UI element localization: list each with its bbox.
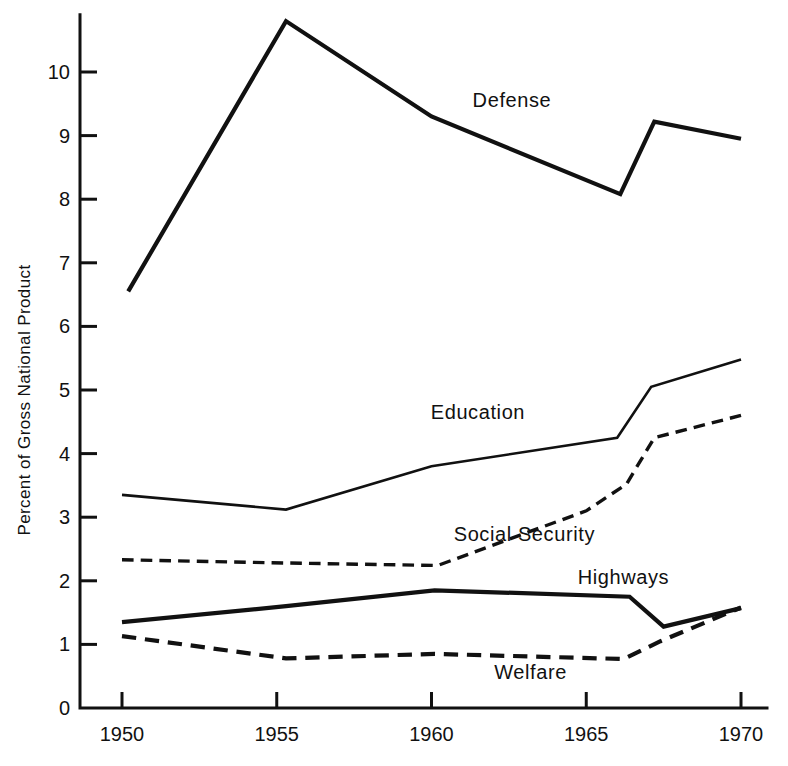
series-label-social-security: Social Security [454, 523, 595, 545]
x-tick-label: 1970 [719, 723, 764, 745]
x-tick-label: 1960 [409, 723, 454, 745]
series-label-defense: Defense [473, 89, 552, 111]
y-tick-label: 1 [59, 633, 70, 655]
x-axis-tick-labels: 19501955196019651970 [100, 723, 764, 745]
axes [80, 15, 767, 708]
axis-lines [80, 15, 767, 708]
series-line-social-security [122, 415, 741, 565]
y-tick-label: 6 [59, 315, 70, 337]
series-label-welfare: Welfare [494, 661, 567, 683]
x-tick-label: 1950 [100, 723, 145, 745]
x-axis-ticks [122, 692, 741, 708]
y-tick-label: 9 [59, 125, 70, 147]
data-series [122, 21, 741, 659]
x-tick-label: 1965 [564, 723, 609, 745]
y-tick-label: 8 [59, 188, 70, 210]
chart-canvas: 012345678910 19501955196019651970 Defens… [0, 0, 788, 766]
y-axis-ticks [80, 72, 97, 644]
x-tick-label: 1955 [255, 723, 300, 745]
y-tick-label: 3 [59, 506, 70, 528]
series-line-education [122, 360, 741, 510]
y-tick-label: 10 [48, 61, 70, 83]
y-tick-label: 4 [59, 443, 70, 465]
series-label-education: Education [431, 401, 525, 423]
chart-figure: 012345678910 19501955196019651970 Defens… [0, 0, 788, 766]
y-axis-tick-labels: 012345678910 [48, 61, 70, 719]
y-tick-label: 5 [59, 379, 70, 401]
y-tick-label: 0 [59, 697, 70, 719]
series-line-defense [128, 21, 741, 291]
series-label-highways: Highways [578, 566, 670, 588]
y-tick-label: 2 [59, 570, 70, 592]
y-axis-title: Percent of Gross National Product [15, 264, 34, 535]
y-tick-label: 7 [59, 252, 70, 274]
series-line-highways [122, 590, 741, 626]
